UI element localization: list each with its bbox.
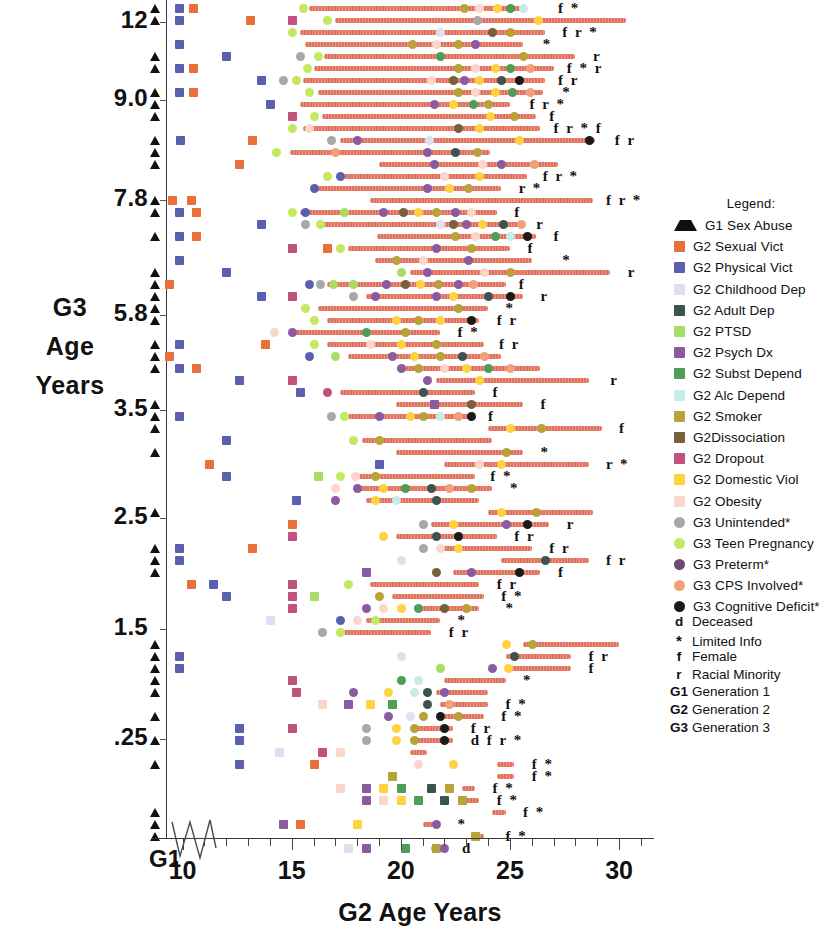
timeline-row bbox=[0, 687, 660, 698]
event-marker bbox=[371, 472, 380, 481]
event-marker bbox=[493, 4, 502, 13]
event-marker bbox=[392, 724, 401, 733]
event-marker bbox=[423, 376, 432, 385]
timeline-row bbox=[0, 435, 660, 446]
legend-item-label: G3 CPS Involved* bbox=[693, 578, 803, 593]
x-tick-mark bbox=[619, 839, 620, 850]
legend-swatch-icon bbox=[674, 347, 685, 358]
timeline-row bbox=[0, 495, 660, 506]
legend-key-symbol: G2 bbox=[666, 702, 692, 717]
legend-item-label: G2 Physical Vict bbox=[693, 260, 793, 275]
event-marker bbox=[436, 664, 445, 673]
event-marker bbox=[449, 520, 458, 529]
event-marker bbox=[506, 364, 515, 373]
event-marker bbox=[449, 100, 458, 109]
legend: Legend: G1 Sex AbuseG2 Sexual VictG2 Phy… bbox=[666, 196, 829, 618]
timeline-row: f bbox=[0, 231, 660, 242]
x-minor-tick-mark bbox=[444, 839, 445, 846]
event-marker bbox=[445, 184, 454, 193]
legend-key-row: G1Generation 1 bbox=[666, 684, 829, 702]
event-marker bbox=[401, 484, 410, 493]
legend-key-label: Deceased bbox=[692, 614, 753, 629]
event-marker bbox=[406, 712, 415, 721]
lifespan-bar bbox=[322, 222, 523, 227]
event-marker bbox=[301, 220, 310, 229]
timeline-row: f bbox=[0, 207, 660, 218]
x-axis-title: G2 Age Years bbox=[170, 898, 670, 927]
event-marker bbox=[379, 484, 388, 493]
legend-item: G3 Preterm* bbox=[666, 554, 829, 575]
event-marker bbox=[175, 4, 184, 13]
x-minor-tick-mark bbox=[314, 839, 315, 846]
lifespan-bar bbox=[396, 534, 496, 539]
event-marker bbox=[532, 508, 541, 517]
event-marker bbox=[414, 316, 423, 325]
event-marker bbox=[353, 484, 362, 493]
event-marker bbox=[288, 292, 297, 301]
event-marker bbox=[530, 160, 539, 169]
timeline-row: f bbox=[0, 399, 660, 410]
event-marker bbox=[397, 784, 406, 793]
event-marker bbox=[414, 604, 423, 613]
legend-item-label: G2 Domestic Viol bbox=[693, 472, 799, 487]
legend-swatch-icon bbox=[674, 496, 685, 507]
timeline-row: f * bbox=[0, 759, 660, 770]
event-marker bbox=[150, 136, 160, 145]
timeline-row bbox=[0, 147, 660, 158]
event-marker bbox=[362, 724, 371, 733]
event-marker bbox=[510, 652, 519, 661]
event-marker bbox=[272, 148, 281, 157]
x-minor-tick-mark bbox=[423, 839, 424, 846]
event-marker bbox=[397, 796, 406, 805]
event-marker bbox=[436, 352, 445, 361]
event-marker bbox=[406, 412, 415, 421]
timeline-row: f r bbox=[0, 723, 660, 734]
event-marker bbox=[454, 280, 463, 289]
legend-item-label: G2 Childhood Dep bbox=[693, 282, 806, 297]
lifespan-bar bbox=[290, 150, 491, 155]
lifespan-bar bbox=[444, 678, 505, 683]
event-marker bbox=[440, 796, 449, 805]
legend-key-label: Generation 1 bbox=[692, 684, 770, 699]
event-marker bbox=[353, 136, 362, 145]
event-marker bbox=[401, 844, 410, 853]
event-marker bbox=[410, 352, 419, 361]
event-marker bbox=[316, 220, 325, 229]
event-marker bbox=[502, 520, 511, 529]
event-marker bbox=[192, 208, 201, 217]
event-marker bbox=[423, 700, 432, 709]
event-marker bbox=[430, 100, 439, 109]
event-marker bbox=[499, 220, 508, 229]
timeline-row: f bbox=[0, 567, 660, 578]
event-marker bbox=[371, 292, 380, 301]
event-marker bbox=[458, 352, 467, 361]
event-marker bbox=[296, 820, 305, 829]
legend-item: G3 CPS Involved* bbox=[666, 575, 829, 596]
lifespan-bar bbox=[370, 198, 593, 203]
event-marker bbox=[288, 124, 297, 133]
event-marker bbox=[344, 580, 353, 589]
lifespan-bar bbox=[497, 762, 514, 767]
event-marker bbox=[480, 268, 489, 277]
lifespan-bar bbox=[322, 114, 536, 119]
event-marker bbox=[292, 688, 301, 697]
x-tick-mark bbox=[292, 839, 293, 850]
event-marker bbox=[150, 148, 160, 157]
event-marker bbox=[175, 40, 184, 49]
event-marker bbox=[425, 136, 434, 145]
event-marker bbox=[150, 268, 160, 277]
event-marker bbox=[419, 520, 428, 529]
legend-item: G1 Sex Abuse bbox=[666, 215, 829, 236]
event-marker bbox=[175, 412, 184, 421]
event-marker bbox=[362, 328, 371, 337]
event-marker bbox=[175, 64, 184, 73]
event-marker bbox=[288, 244, 297, 253]
event-marker bbox=[299, 4, 308, 13]
event-marker bbox=[301, 208, 310, 217]
legend-swatch-icon bbox=[674, 580, 685, 591]
event-marker bbox=[519, 52, 528, 61]
event-marker bbox=[506, 232, 515, 241]
event-marker bbox=[454, 40, 463, 49]
lifespan-bar bbox=[300, 102, 510, 107]
timeline-row: f r bbox=[0, 315, 660, 326]
